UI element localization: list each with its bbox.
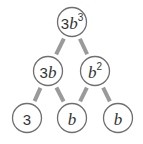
node-mid-right: b2: [81, 57, 110, 86]
node-label-part: 2: [96, 61, 102, 72]
nodes: 3b33bb23bb: [13, 8, 133, 133]
node-leaf-left: 3: [13, 104, 42, 133]
node-mid-left: 3b: [34, 57, 63, 86]
edge-mid-left-to-leaf-mid: [56, 87, 63, 101]
node-leaf-right: b: [104, 104, 133, 133]
edge-mid-right-to-leaf-mid: [80, 88, 87, 102]
node-label-part: b: [88, 63, 97, 82]
node-label-part: b: [68, 110, 77, 129]
node-label: b: [68, 110, 77, 129]
node-label: 3b: [40, 63, 57, 82]
node-label: 3: [23, 111, 31, 128]
node-label-part: b: [48, 63, 57, 82]
node-label: b: [114, 110, 123, 129]
node-label-part: 3: [78, 12, 84, 23]
edge-mid-right-to-leaf-right: [103, 88, 110, 102]
edge-root-to-mid-left: [56, 39, 64, 55]
node-label-part: b: [69, 14, 78, 33]
edge-root-to-mid-right: [80, 39, 87, 55]
node-root: 3b3: [58, 8, 87, 37]
node-leaf-mid: b: [58, 104, 87, 133]
node-label-part: b: [114, 110, 123, 129]
factor-tree: 3b33bb23bb: [0, 0, 143, 144]
node-label-part: 3: [40, 64, 48, 81]
edge-mid-left-to-leaf-left: [35, 88, 41, 101]
node-label-part: 3: [23, 111, 31, 128]
node-label-part: 3: [61, 15, 69, 32]
